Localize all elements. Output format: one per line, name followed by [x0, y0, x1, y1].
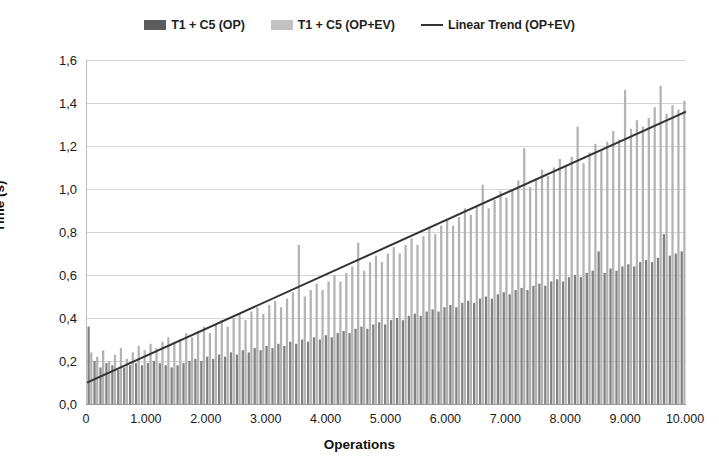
y-tick-label: 1,6 [31, 53, 77, 68]
x-axis-label: Operations [0, 437, 719, 452]
legend-label-op: T1 + C5 (OP) [171, 18, 244, 32]
y-tick-label: 0,2 [31, 354, 77, 369]
x-tick-label: 4.000 [310, 412, 341, 426]
legend-item-op: T1 + C5 (OP) [144, 18, 244, 32]
x-tick-label: 8.000 [550, 412, 581, 426]
x-tick-label: 5.000 [370, 412, 401, 426]
legend-swatch-light-bar-icon [271, 20, 293, 30]
x-tick-label: 1.000 [130, 412, 161, 426]
chart-root: T1 + C5 (OP) T1 + C5 (OP+EV) Linear Tren… [0, 0, 719, 475]
x-tick-label: 7.000 [490, 412, 521, 426]
y-tick-label: 1,2 [31, 139, 77, 154]
legend-item-trend: Linear Trend (OP+EV) [421, 18, 575, 32]
y-tick-label: 0,0 [31, 397, 77, 412]
y-tick-label: 1,4 [31, 96, 77, 111]
y-tick-label: 0,6 [31, 268, 77, 283]
plot-area [86, 60, 686, 404]
x-tick-label: 3.000 [250, 412, 281, 426]
legend-item-opev: T1 + C5 (OP+EV) [271, 18, 395, 32]
x-axis-line [86, 404, 686, 405]
y-axis-label: Time (s) [0, 180, 7, 232]
x-tick-label: 0 [83, 412, 90, 426]
legend-swatch-dark-bar-icon [144, 20, 166, 30]
y-tick-label: 0,8 [31, 225, 77, 240]
legend-label-opev: T1 + C5 (OP+EV) [298, 18, 395, 32]
x-tick-label: 6.000 [430, 412, 461, 426]
chart-series [87, 60, 686, 404]
y-tick-label: 1,0 [31, 182, 77, 197]
x-tick-label: 10.000 [666, 412, 704, 426]
y-tick-label: 0,4 [31, 311, 77, 326]
legend-label-trend: Linear Trend (OP+EV) [448, 18, 575, 32]
x-tick-label: 2.000 [190, 412, 221, 426]
legend-swatch-trend-line-icon [421, 24, 443, 26]
chart-legend: T1 + C5 (OP) T1 + C5 (OP+EV) Linear Tren… [0, 12, 719, 38]
x-tick-label: 9.000 [609, 412, 640, 426]
